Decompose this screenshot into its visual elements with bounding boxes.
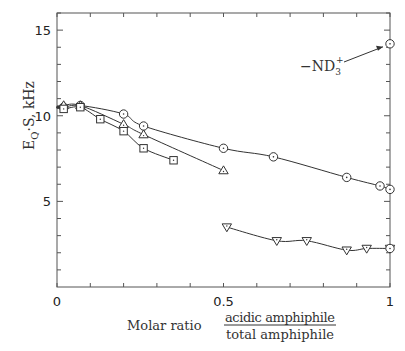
inverted-triangle-marker-center bbox=[276, 239, 277, 240]
circle-marker-center bbox=[223, 147, 225, 149]
reference-dot bbox=[56, 105, 60, 109]
chart: 00.5151015 −ND3+ EQ·S, kHz Molar ratio a… bbox=[0, 0, 405, 351]
y-tick-label: 15 bbox=[34, 23, 51, 38]
circle-marker-center bbox=[346, 177, 348, 179]
inverted-triangle-marker-center bbox=[366, 247, 367, 248]
x-axis-fraction-denominator: total amphiphile bbox=[226, 327, 334, 342]
square-marker-center bbox=[100, 118, 101, 119]
circle-marker-center bbox=[143, 125, 145, 127]
annotation-arrow-line bbox=[344, 47, 383, 62]
inverted-triangle-marker-center bbox=[226, 225, 227, 226]
square-marker-center bbox=[80, 106, 81, 107]
annotation-arrowhead bbox=[376, 46, 383, 51]
triangle-marker bbox=[139, 130, 148, 138]
data-markers bbox=[56, 40, 395, 255]
x-axis-fraction-numerator: acidic amphiphile bbox=[225, 310, 335, 325]
nd3-label: −ND3+ bbox=[300, 55, 344, 77]
square-marker-center bbox=[143, 148, 144, 149]
inverted-triangle-marker-center bbox=[346, 248, 347, 249]
circle-marker-center bbox=[273, 156, 275, 158]
triangle-marker-center bbox=[223, 171, 224, 172]
circle-marker-center bbox=[379, 185, 381, 187]
x-tick-label: 0 bbox=[53, 294, 61, 309]
inverted-triangle-marker-center bbox=[306, 239, 307, 240]
annotation: −ND3+ bbox=[300, 46, 383, 77]
fit-curves bbox=[57, 104, 390, 250]
square-marker-center bbox=[123, 130, 124, 131]
square-marker-center bbox=[173, 160, 174, 161]
circle-marker-center bbox=[389, 189, 391, 191]
square-curve bbox=[57, 106, 174, 160]
circle-marker-center bbox=[123, 113, 125, 115]
y-tick-label: 5 bbox=[43, 194, 51, 209]
x-tick-label: 0.5 bbox=[213, 294, 234, 309]
triangle-marker bbox=[219, 166, 228, 174]
square-marker-center bbox=[63, 108, 64, 109]
circle-at-1-marker-center bbox=[389, 248, 391, 250]
x-tick-label: 1 bbox=[386, 294, 394, 309]
triangle-marker bbox=[119, 120, 128, 128]
ND3+ point-marker-center bbox=[389, 43, 391, 45]
triangle-marker-center bbox=[143, 135, 144, 136]
triangle-marker-center bbox=[123, 125, 124, 126]
x-axis-label: Molar ratio bbox=[127, 318, 202, 333]
